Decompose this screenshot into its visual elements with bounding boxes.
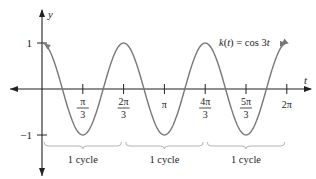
x-tick-label: 2π xyxy=(282,99,292,110)
cycle-bracket xyxy=(126,142,204,149)
x-tick-denominator: 3 xyxy=(244,109,249,120)
curve-arrow-icon xyxy=(44,44,50,50)
cycle-bracket xyxy=(44,142,122,149)
y-axis-label: y xyxy=(47,8,53,20)
x-tick-label: 5π xyxy=(241,96,251,107)
cycle-label: 1 cycle xyxy=(231,154,261,165)
y-tick-label: 1 xyxy=(27,37,33,49)
y-axis-down-arrow-icon xyxy=(39,168,45,176)
x-tick-denominator: 3 xyxy=(80,109,85,120)
x-axis-label: t xyxy=(304,74,308,86)
cosine-chart: y t π32π3π4π35π32π 1−1 k(t) = cos 3t 1 c… xyxy=(0,0,316,179)
y-tick-label: −1 xyxy=(20,129,32,141)
cycle-bracket xyxy=(207,142,285,149)
function-label: k(t) = cos 3t xyxy=(219,37,271,49)
x-tick-label: 4π xyxy=(200,96,210,107)
x-tick-denominator: 3 xyxy=(203,109,208,120)
cycle-label: 1 cycle xyxy=(149,154,179,165)
function-label-text: k(t) = cos 3t xyxy=(219,37,271,49)
x-axis-left-arrow-icon xyxy=(10,86,18,92)
curve-arrow-icon xyxy=(282,39,289,44)
x-tick-label: π xyxy=(80,96,85,107)
x-tick-label: 2π xyxy=(119,96,129,107)
x-tick-denominator: 3 xyxy=(121,109,126,120)
cycle-label: 1 cycle xyxy=(68,154,98,165)
cycle-brackets: 1 cycle1 cycle1 cycle xyxy=(44,142,285,165)
x-tick-label: π xyxy=(162,99,167,110)
